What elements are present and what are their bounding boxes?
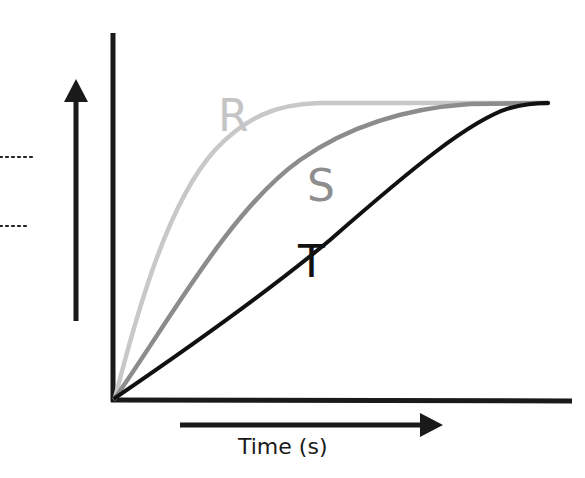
curve-label-t: T (298, 240, 325, 284)
y-direction-arrow (64, 79, 88, 321)
x-axis-label: Time (s) (238, 436, 327, 458)
curve-t (115, 103, 548, 398)
reaction-rate-diagram (0, 0, 585, 478)
x-axis (111, 400, 572, 401)
curve-label-s: S (307, 164, 335, 208)
curve-label-r: R (218, 94, 249, 138)
